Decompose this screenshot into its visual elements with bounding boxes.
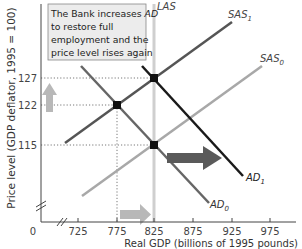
price-rise-arrow xyxy=(42,83,57,112)
annotation-box: The Bank increases AD to restore full em… xyxy=(48,4,158,60)
svg-text:825: 825 xyxy=(144,226,163,237)
svg-text:925: 925 xyxy=(222,226,241,237)
sas0-curve xyxy=(82,66,262,196)
svg-text:775: 775 xyxy=(107,226,126,237)
svg-text:127: 127 xyxy=(18,73,37,84)
equilibrium-point-c xyxy=(150,141,158,149)
equilibrium-point-a xyxy=(113,101,121,109)
las-label: LAS xyxy=(157,1,176,12)
equilibrium-point-b xyxy=(150,74,158,82)
ad0-label: AD0 xyxy=(209,199,230,213)
svg-text:employment and the: employment and the xyxy=(51,34,149,45)
svg-text:0: 0 xyxy=(30,226,36,237)
svg-text:to restore full: to restore full xyxy=(51,21,113,32)
svg-text:975: 975 xyxy=(260,226,279,237)
svg-text:122: 122 xyxy=(18,100,37,111)
x-tick-labels: 0 725 775 825 875 925 975 xyxy=(30,226,280,237)
ad1-label: AD1 xyxy=(245,172,265,186)
sas0-label: SAS0 xyxy=(260,53,285,67)
y-axis-label: Price level (GDP deflator, 1995 = 100) xyxy=(5,7,17,208)
equilibrium-points xyxy=(113,74,158,149)
svg-text:875: 875 xyxy=(183,226,202,237)
svg-text:725: 725 xyxy=(68,226,87,237)
guide-lines xyxy=(41,78,154,222)
svg-text:115: 115 xyxy=(18,140,37,151)
y-tick-labels: 127 122 115 xyxy=(18,73,37,151)
svg-text:The Bank increases AD: The Bank increases AD xyxy=(50,8,158,19)
sas1-label: SAS1 xyxy=(228,9,252,23)
aggregate-supply-demand-chart: Price level (GDP deflator, 1995 = 100) L… xyxy=(0,0,302,249)
svg-text:price level rises again: price level rises again xyxy=(51,47,153,58)
x-axis-label: Real GDP (billions of 1995 pounds) xyxy=(124,238,298,249)
